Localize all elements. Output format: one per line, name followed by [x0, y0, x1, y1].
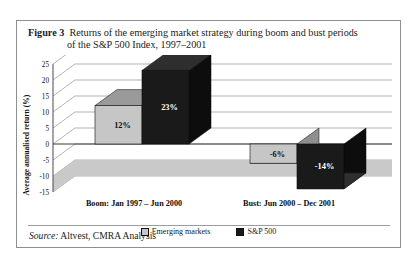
bar-sp500-boom: [142, 55, 211, 144]
y-tick-label: -10: [39, 173, 49, 181]
legend-swatch-sp500: [236, 228, 244, 236]
bar-value-label: 23%: [161, 103, 178, 112]
figure-caption: Figure 3 Returns of the emerging market …: [28, 27, 390, 52]
legend-label: S&P 500: [247, 227, 276, 236]
x-category-label: Boom: Jan 1997 – Jun 2000: [86, 199, 182, 208]
bar-value-label: -14%: [315, 162, 335, 171]
y-tick-label: -5: [43, 157, 49, 165]
legend-item[interactable]: S&P 500: [236, 227, 276, 236]
bar-value-label: 12%: [114, 121, 131, 130]
legend-row: Emerging marketsS&P 500: [17, 227, 400, 236]
y-axis-title: Average annualised return (%): [22, 94, 31, 195]
chart-plot-area: Average annualised return (%) 2520151050…: [17, 55, 400, 210]
y-tick-label: 15: [42, 93, 50, 101]
y-tick-label: 5: [45, 125, 49, 133]
figure-number: Figure 3: [28, 27, 64, 38]
bar-value-label: -6%: [270, 150, 285, 159]
bar-chart-svg: Average annualised return (%) 2520151050…: [17, 55, 400, 210]
y-tick-label: 0: [45, 141, 49, 149]
figure-caption-line2: of the S&P 500 Index, 1997–2001: [28, 39, 390, 51]
legend-item[interactable]: Emerging markets: [141, 227, 211, 236]
legend-label: Emerging markets: [152, 227, 211, 236]
legend-swatch-emerging-markets: [141, 228, 149, 236]
category-label-group: Boom: Jan 1997 – Jun 2000Bust: Jun 2000 …: [86, 199, 335, 208]
y-tick-label: -15: [39, 189, 49, 197]
y-tick-label-group: 2520151050-5-10-15: [39, 61, 49, 197]
figure-caption-line1: Returns of the emerging market strategy …: [69, 27, 357, 38]
figure-container: Figure 3 Returns of the emerging market …: [16, 20, 401, 248]
y-tick-label: 20: [42, 77, 50, 85]
page-top-margin: [0, 0, 418, 16]
source-divider: [28, 225, 390, 226]
x-category-label: Bust: Jun 2000 – Dec 2001: [243, 199, 335, 208]
y-tick-label: 10: [42, 109, 50, 117]
y-tick-label: 25: [42, 61, 50, 69]
